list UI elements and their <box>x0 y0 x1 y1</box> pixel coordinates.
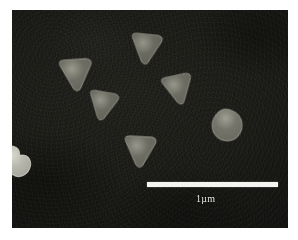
scale-bar-label: 1µm <box>196 194 215 204</box>
scale-bar <box>147 182 278 187</box>
micrograph-image: 1µm <box>12 10 288 228</box>
sem-figure: 1µm <box>0 0 298 240</box>
bright-cluster-left-edge <box>12 143 41 187</box>
